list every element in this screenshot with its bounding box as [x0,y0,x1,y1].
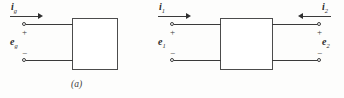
current-arrow-head-a [38,13,43,19]
current-arrow-shaft-b-left [158,16,186,17]
figure-container: ig + eg − (a) i1 [0,0,344,98]
terminal-a-top [22,22,26,26]
polarity-minus-a: − [22,49,27,58]
current-arrow-head-b-left [186,13,191,19]
polarity-minus-b-right: − [317,49,322,58]
caption-a: (a) [71,79,82,89]
lead-a-bottom [26,60,73,61]
current-symbol-b-right: i2 [322,2,328,16]
current-arrow-shaft-b-right [303,16,331,17]
lead-b-left-top [174,24,221,25]
voltage-symbol-b-left: e1 [158,37,166,51]
terminal-b-left-bottom [170,58,174,62]
terminal-b-left-top [170,22,174,26]
lead-b-right-bottom [272,60,318,61]
polarity-minus-b-left: − [170,49,175,58]
terminal-a-bottom [22,58,26,62]
panel-a: ig + eg − (a) [0,0,172,98]
voltage-symbol-a: eg [10,37,18,51]
lead-a-top [26,24,73,25]
lead-b-right-top [272,24,318,25]
voltage-symbol-b-right: e2 [322,37,330,51]
network-box-a [72,18,118,70]
panel-b: i1 + e1 − i2 + e2 − (b) [172,0,344,98]
current-arrow-head-b-right [298,13,303,19]
lead-b-left-bottom [174,60,221,61]
current-arrow-shaft-a [10,16,38,17]
network-box-b [220,18,273,70]
terminal-b-right-top [317,22,321,26]
terminal-b-right-bottom [317,58,321,62]
current-symbol-b-left: i1 [159,2,165,16]
polarity-plus-a: + [22,28,27,37]
polarity-plus-b-left: + [170,28,175,37]
current-symbol-a: ig [11,2,17,16]
